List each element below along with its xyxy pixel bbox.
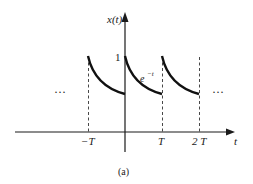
curve-label-exponent: −t <box>147 70 155 78</box>
ellipsis-left: ··· <box>54 85 66 99</box>
figure-caption: (a) <box>118 166 129 178</box>
curve-label: e <box>140 73 145 84</box>
signal-plot: x(t) 1 e −t ··· ··· −T T 2 T t (a) <box>0 0 253 184</box>
y-axis-label: x(t) <box>106 13 123 26</box>
x-axis-label: t <box>234 135 238 147</box>
x-axis-arrow-icon <box>122 12 129 22</box>
tick-label-neg-T: −T <box>81 135 95 147</box>
peak-label: 1 <box>115 51 121 63</box>
tick-label-T: T <box>158 135 165 147</box>
ellipsis-right: ··· <box>212 85 224 99</box>
periodic-exponential-figure: x(t) 1 e −t ··· ··· −T T 2 T t (a) <box>0 0 253 184</box>
curve-segment-1 <box>162 56 199 94</box>
tick-label-2T: 2 T <box>192 135 207 147</box>
